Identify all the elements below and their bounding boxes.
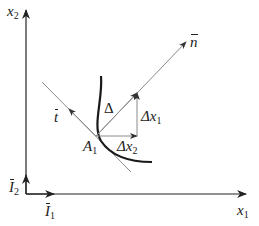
delta-label: Δ — [104, 101, 114, 116]
tangent-label: t — [54, 110, 58, 125]
delta-x2-label-text: Δx — [117, 138, 132, 154]
x1-label-base: x — [237, 202, 244, 218]
i2-basis-label: I2 — [9, 180, 19, 197]
normal-label-text: n — [190, 35, 198, 50]
x1-axis-label: x1 — [237, 203, 249, 220]
point-a1-label-base: A — [83, 138, 92, 154]
i1-label-base: I — [45, 204, 50, 219]
x2-axis-label: x2 — [7, 4, 19, 21]
x2-label-sub: 2 — [14, 10, 19, 21]
i2-label-base: I — [9, 180, 14, 195]
delta-x2-label-sub: 2 — [132, 145, 137, 156]
point-a1-label: A1 — [83, 139, 97, 156]
i2-label-sub: 2 — [14, 186, 19, 197]
x2-label-base: x — [7, 3, 14, 19]
tangent-label-text: t — [54, 110, 58, 125]
i1-label-sub: 1 — [50, 210, 55, 221]
x1-label-sub: 1 — [244, 209, 249, 220]
diagram-canvas: x2 x1 I2 I1 n t Δ Δx1 Δx2 A1 — [0, 0, 259, 226]
tangent-arrow — [69, 109, 96, 136]
i1-basis-label: I1 — [45, 204, 55, 221]
delta-x1-label-text: Δx — [141, 108, 156, 124]
delta-label-text: Δ — [104, 100, 114, 116]
point-a1-label-sub: 1 — [92, 145, 97, 156]
delta-x1-label-sub: 1 — [156, 115, 161, 126]
delta-x2-label: Δx2 — [117, 139, 137, 156]
delta-x1-label: Δx1 — [141, 109, 161, 126]
delta-arrow — [96, 93, 137, 136]
normal-label: n — [190, 35, 198, 50]
diagram-graphics — [0, 0, 259, 226]
